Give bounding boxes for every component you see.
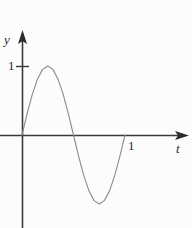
sine-wave-figure: y t 1 1 xyxy=(0,0,192,228)
plot-canvas xyxy=(0,0,192,228)
x-tick-label-1: 1 xyxy=(128,139,135,152)
y-axis-label: y xyxy=(4,33,10,46)
x-axis-label: t xyxy=(176,142,180,155)
y-tick-label-1: 1 xyxy=(8,59,15,72)
